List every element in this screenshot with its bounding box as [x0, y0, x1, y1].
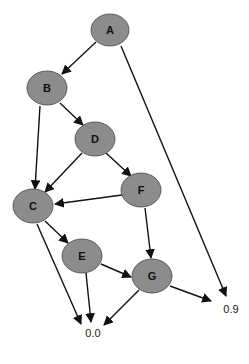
leaf-0.0: 0.0	[85, 327, 100, 339]
graph-canvas: A B D F C E G 0.0 0.9	[0, 0, 249, 364]
node-label: C	[29, 200, 37, 212]
edge-e-g	[101, 264, 131, 277]
edge-b-d	[60, 103, 83, 125]
node-label: D	[91, 133, 99, 145]
node-f: F	[121, 173, 161, 207]
node-label: A	[106, 24, 114, 36]
edge-f-g	[145, 208, 151, 258]
node-a: A	[91, 14, 129, 46]
leaf-label: 0.9	[223, 303, 238, 315]
edge-b-c	[35, 106, 40, 189]
node-c: C	[13, 189, 53, 223]
node-b: B	[27, 71, 67, 105]
edge-c-e	[45, 221, 68, 243]
node-g: G	[132, 259, 172, 293]
edge-d-f	[106, 153, 131, 176]
leaf-0.9: 0.9	[223, 303, 238, 315]
node-e: E	[62, 239, 102, 273]
edge-g-0.9	[170, 286, 211, 301]
node-label: F	[138, 184, 145, 196]
edge-d-c	[45, 153, 82, 192]
node-label: B	[43, 82, 51, 94]
edge-f-c	[55, 195, 122, 204]
edge-a-0.9	[121, 46, 226, 296]
node-label: G	[148, 270, 157, 282]
leaf-label: 0.0	[85, 327, 100, 339]
node-d: D	[75, 122, 115, 156]
edge-e-0.0	[86, 273, 91, 322]
edge-g-0.0	[104, 290, 139, 325]
edge-a-b	[62, 42, 96, 74]
edge-c-0.0	[37, 224, 81, 324]
node-label: E	[78, 250, 85, 262]
